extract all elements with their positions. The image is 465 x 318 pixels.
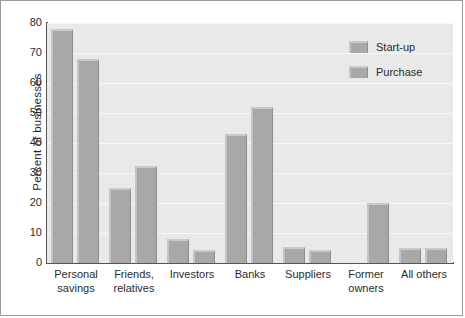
bar-group: [47, 23, 105, 263]
y-tick-label: 10: [2, 227, 42, 238]
bar-group: [105, 23, 163, 263]
bar: [367, 203, 389, 263]
y-tick-label: 80: [2, 17, 42, 28]
x-tick-label-line: relatives: [86, 282, 182, 296]
bar: [309, 250, 331, 264]
bar-group: [279, 23, 337, 263]
bar-group: [221, 23, 279, 263]
legend-swatch: [349, 41, 368, 53]
bar: [109, 188, 131, 263]
x-tick-label: All others: [376, 268, 465, 282]
x-tick-label-line: owners: [318, 282, 414, 296]
legend-label: Purchase: [376, 66, 422, 78]
bar: [225, 134, 247, 263]
bar: [193, 250, 215, 264]
legend-swatch: [349, 66, 368, 78]
legend-item: Start-up: [349, 41, 422, 53]
bar: [399, 248, 421, 263]
bar: [425, 248, 447, 263]
bar: [283, 247, 305, 264]
y-axis-title: Percent of businesses: [31, 52, 43, 212]
legend-item: Purchase: [349, 66, 422, 78]
chart-legend: Start-upPurchase: [349, 41, 422, 91]
legend-label: Start-up: [376, 41, 415, 53]
y-tick-label: 0: [2, 257, 42, 268]
bar: [167, 239, 189, 263]
bar: [135, 166, 157, 264]
bar: [251, 107, 273, 263]
bar: [51, 29, 73, 263]
x-tick-label-line: All others: [376, 268, 465, 282]
bar-group: [163, 23, 221, 263]
bar: [77, 59, 99, 263]
chart-figure: 80706050403020100 Percent of businesses …: [0, 0, 463, 316]
